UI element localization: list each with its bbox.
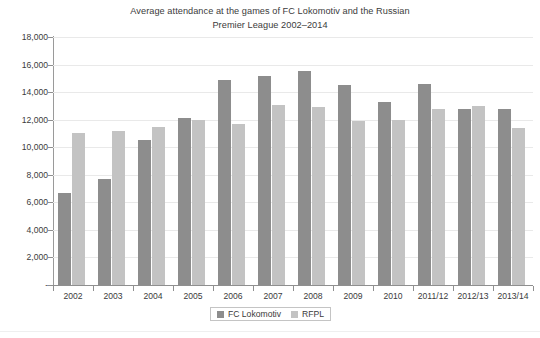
bar-rfpl bbox=[232, 124, 245, 285]
bar-rfpl bbox=[152, 127, 165, 285]
bar-group bbox=[93, 37, 133, 285]
bar-rfpl bbox=[72, 133, 85, 285]
bar-rfpl bbox=[192, 120, 205, 285]
bar-rfpl bbox=[472, 106, 485, 285]
bar-group bbox=[173, 37, 213, 285]
chart-title-line-2: Premier League 2002–2014 bbox=[212, 20, 327, 30]
y-axis-tick-label: 10,000 bbox=[4, 142, 48, 152]
legend-label: RFPL bbox=[302, 309, 324, 319]
bar-rfpl bbox=[352, 121, 365, 285]
y-axis-tick-label: 12,000 bbox=[4, 115, 48, 125]
x-axis-tick-label: 2009 bbox=[333, 291, 373, 301]
bar-group bbox=[373, 37, 413, 285]
bar-fc-lokomotiv bbox=[498, 109, 511, 285]
y-axis-tick-label: 2,000 bbox=[4, 252, 48, 262]
bar-fc-lokomotiv bbox=[258, 76, 271, 285]
x-axis-tick-label: 2005 bbox=[173, 291, 213, 301]
y-axis-tick-label: 6,000 bbox=[4, 197, 48, 207]
bar-group bbox=[453, 37, 493, 285]
legend-entry-rfpl[interactable]: RFPL bbox=[291, 309, 324, 319]
plot-area bbox=[53, 37, 533, 285]
y-axis-tick-label: 16,000 bbox=[4, 60, 48, 70]
bar-group bbox=[253, 37, 293, 285]
bar-rfpl bbox=[512, 128, 525, 285]
x-axis-tick-label: 2006 bbox=[213, 291, 253, 301]
bar-fc-lokomotiv bbox=[58, 193, 71, 285]
chart-title: Average attendance at the games of FC Lo… bbox=[60, 5, 480, 32]
bar-group bbox=[293, 37, 333, 285]
bar-group bbox=[493, 37, 533, 285]
legend-entry-fc-lokomotiv[interactable]: FC Lokomotiv bbox=[217, 309, 281, 319]
bar-group bbox=[333, 37, 373, 285]
x-axis-tick-label: 2004 bbox=[133, 291, 173, 301]
bar-rfpl bbox=[392, 120, 405, 285]
bar-fc-lokomotiv bbox=[458, 109, 471, 285]
bar-fc-lokomotiv bbox=[218, 80, 231, 285]
bar-rfpl bbox=[272, 105, 285, 285]
x-axis-tick-mark bbox=[533, 286, 534, 291]
legend-swatch-icon bbox=[291, 311, 298, 318]
x-axis-tick-label: 2010 bbox=[373, 291, 413, 301]
bar-group bbox=[53, 37, 93, 285]
bar-rfpl bbox=[312, 107, 325, 285]
bar-fc-lokomotiv bbox=[298, 71, 311, 285]
bar-group bbox=[133, 37, 173, 285]
bar-group bbox=[213, 37, 253, 285]
x-axis-tick-label: 2012/13 bbox=[453, 291, 493, 301]
y-axis-tick-label: 18,000 bbox=[4, 32, 48, 42]
x-axis-tick-label: 2003 bbox=[93, 291, 133, 301]
x-axis-tick-label: 2011/12 bbox=[413, 291, 453, 301]
bar-rfpl bbox=[432, 109, 445, 285]
bar-fc-lokomotiv bbox=[378, 102, 391, 285]
chart-title-line-1: Average attendance at the games of FC Lo… bbox=[130, 6, 409, 16]
bar-rfpl bbox=[112, 131, 125, 285]
x-axis-tick-label: 2007 bbox=[253, 291, 293, 301]
chart-legend: FC LokomotivRFPL bbox=[210, 307, 331, 321]
x-axis-tick-label: 2002 bbox=[53, 291, 93, 301]
page-edge-line bbox=[0, 331, 540, 332]
bar-fc-lokomotiv bbox=[178, 118, 191, 285]
y-axis-tick-label: 4,000 bbox=[4, 225, 48, 235]
attendance-bar-chart: Average attendance at the games of FC Lo… bbox=[0, 0, 540, 338]
bar-fc-lokomotiv bbox=[98, 179, 111, 285]
y-axis-tick-label: 14,000 bbox=[4, 87, 48, 97]
bar-fc-lokomotiv bbox=[338, 85, 351, 285]
legend-label: FC Lokomotiv bbox=[228, 309, 281, 319]
y-axis-tick-label: 8,000 bbox=[4, 170, 48, 180]
bar-fc-lokomotiv bbox=[418, 84, 431, 285]
x-axis-tick-mark bbox=[53, 286, 54, 291]
x-axis-tick-label: 2013/14 bbox=[493, 291, 533, 301]
y-axis: 18,00016,00014,00012,00010,0008,0006,000… bbox=[0, 0, 48, 338]
y-axis-tick-label: - bbox=[4, 280, 48, 290]
legend-swatch-icon bbox=[217, 311, 224, 318]
bar-fc-lokomotiv bbox=[138, 140, 151, 285]
x-axis-tick-label: 2008 bbox=[293, 291, 333, 301]
bar-group bbox=[413, 37, 453, 285]
